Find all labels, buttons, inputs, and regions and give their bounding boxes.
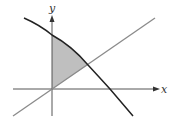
x-axis-arrow-icon	[153, 87, 160, 92]
straight-line	[13, 18, 155, 116]
shaded-region	[52, 35, 88, 89]
y-axis-label: y	[48, 2, 56, 15]
graph-diagram: x y	[0, 0, 169, 122]
y-axis-arrow-icon	[50, 15, 55, 22]
x-axis-label: x	[161, 83, 168, 96]
